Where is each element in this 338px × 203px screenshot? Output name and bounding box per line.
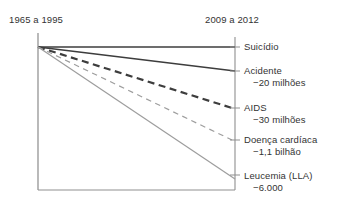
- series-value-acidente: −20 milhões: [244, 77, 306, 89]
- series-value-leucemia: −6.000: [244, 182, 312, 194]
- series-line-doenca-cardiaca: [38, 47, 232, 140]
- series-name-leucemia: Leucemia (LLA): [244, 170, 312, 182]
- series-label-leucemia: Leucemia (LLA) −6.000: [244, 170, 312, 193]
- series-value-doenca-cardiaca: −1,1 bilhão: [244, 146, 317, 158]
- series-name-aids: AIDS: [244, 102, 306, 114]
- series-line-aids: [38, 47, 232, 108]
- series-value-aids: −30 milhões: [244, 114, 306, 126]
- series-label-aids: AIDS −30 milhões: [244, 102, 306, 125]
- series-label-doenca-cardiaca: Doença cardíaca −1,1 bilhão: [244, 134, 317, 157]
- series-label-acidente: Acidente −20 milhões: [244, 65, 306, 88]
- series-name-acidente: Acidente: [244, 65, 306, 77]
- series-name-doenca-cardiaca: Doença cardíaca: [244, 134, 317, 146]
- mortality-decline-chart: 1965 a 1995 2009 a 2012 Suicídio Acident…: [0, 0, 338, 203]
- series-label-suicidio: Suicídio: [244, 41, 279, 53]
- series-name-suicidio: Suicídio: [244, 41, 279, 53]
